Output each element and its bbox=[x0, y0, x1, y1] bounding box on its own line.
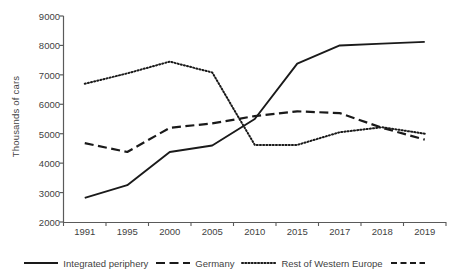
dashed-line-swatch bbox=[390, 258, 426, 268]
legend-item-label: Germany bbox=[195, 258, 234, 269]
solid-line-swatch bbox=[23, 258, 59, 268]
legend-item[interactable]: Germany bbox=[155, 258, 234, 269]
data-series-group bbox=[85, 42, 425, 198]
chart-figure: Thousands of cars 2000300040005000600070… bbox=[0, 0, 449, 275]
plot-area bbox=[0, 0, 449, 232]
legend-item-label: Rest of Western Europe bbox=[281, 258, 382, 269]
series-line-integrated-periphery bbox=[85, 42, 425, 198]
dotted-line-swatch bbox=[241, 258, 277, 268]
legend-item[interactable]: Rest of Western Europe bbox=[241, 258, 382, 269]
series-line-rest-of-western-europe bbox=[85, 62, 425, 145]
long-dash-line-swatch bbox=[155, 258, 191, 268]
legend-item[interactable]: Integrated periphery bbox=[23, 258, 148, 269]
legend-item-label: Integrated periphery bbox=[63, 258, 148, 269]
chart-legend: Integrated peripheryGermanyRest of Weste… bbox=[0, 252, 449, 274]
legend-item[interactable] bbox=[390, 258, 426, 268]
series-line-germany bbox=[85, 111, 425, 152]
